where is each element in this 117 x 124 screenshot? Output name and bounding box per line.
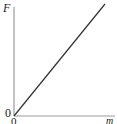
chart-plot-area <box>0 0 117 124</box>
data-line <box>14 4 105 116</box>
x-axis-label: m <box>106 115 113 124</box>
origin-label-x: 0 <box>11 115 17 124</box>
y-axis-label: F <box>3 1 10 16</box>
line-chart: F m 0 0 <box>0 0 117 124</box>
